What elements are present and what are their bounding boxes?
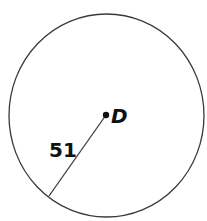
center-point	[103, 112, 109, 118]
center-label: D	[111, 104, 128, 128]
circle-diagram: D 51	[0, 0, 207, 221]
radius-label: 51	[49, 138, 77, 162]
